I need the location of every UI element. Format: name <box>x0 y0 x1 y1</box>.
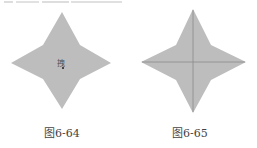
figure-6-64: 拽 图6-64 <box>0 0 128 148</box>
cursor-dot <box>62 67 64 69</box>
figure-caption: 图6-65 <box>172 124 208 140</box>
figure-caption: 图6-64 <box>44 124 80 140</box>
figure-6-65: 图6-65 <box>128 0 257 148</box>
